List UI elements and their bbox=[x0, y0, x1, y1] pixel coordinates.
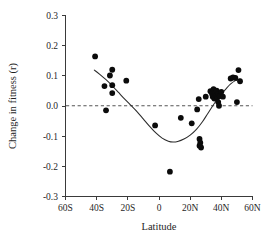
data-point bbox=[178, 115, 184, 121]
data-point bbox=[236, 67, 242, 73]
data-point bbox=[152, 123, 158, 129]
y-tick-label: -0.1 bbox=[43, 132, 58, 142]
data-point bbox=[189, 120, 195, 126]
y-tick-label: -0.3 bbox=[43, 192, 58, 202]
data-point bbox=[92, 54, 98, 60]
x-tick-label: 0 bbox=[157, 203, 162, 213]
data-point bbox=[220, 94, 226, 100]
y-tick-label: 0.3 bbox=[46, 11, 58, 21]
data-point bbox=[203, 94, 209, 100]
x-tick-label: 20S bbox=[120, 203, 135, 213]
data-point bbox=[109, 90, 115, 96]
data-point bbox=[234, 99, 240, 105]
figure-container: 0.3 0.2 0.1 0.0 -0.1 -0.2 -0.3 60S 40S 2… bbox=[0, 0, 273, 248]
data-point bbox=[109, 67, 115, 73]
y-tick-label: 0.1 bbox=[46, 71, 58, 81]
x-tick-label: 40N bbox=[213, 203, 230, 213]
data-point bbox=[237, 78, 243, 84]
data-point bbox=[194, 106, 200, 112]
data-point bbox=[102, 83, 108, 89]
data-point bbox=[196, 96, 202, 102]
plot-background bbox=[0, 0, 273, 248]
x-tick-label: 60S bbox=[58, 203, 73, 213]
data-point bbox=[107, 73, 113, 79]
data-point bbox=[109, 82, 115, 88]
y-tick-label: 0.0 bbox=[46, 101, 58, 111]
data-point bbox=[167, 169, 173, 175]
y-tick-label: -0.2 bbox=[43, 162, 58, 172]
data-point bbox=[198, 145, 204, 151]
x-tick-label: 40S bbox=[89, 203, 104, 213]
x-tick-label: 20N bbox=[182, 203, 199, 213]
x-tick-label: 60N bbox=[244, 203, 261, 213]
data-point bbox=[232, 75, 238, 81]
data-point bbox=[123, 78, 129, 84]
x-axis-title: Latitude bbox=[142, 221, 177, 232]
data-point bbox=[216, 103, 222, 109]
data-point bbox=[103, 107, 109, 113]
y-axis-title: Change in fitness (r) bbox=[7, 62, 19, 149]
scatter-plot: 0.3 0.2 0.1 0.0 -0.1 -0.2 -0.3 60S 40S 2… bbox=[0, 0, 273, 248]
y-tick-label: 0.2 bbox=[46, 41, 58, 51]
